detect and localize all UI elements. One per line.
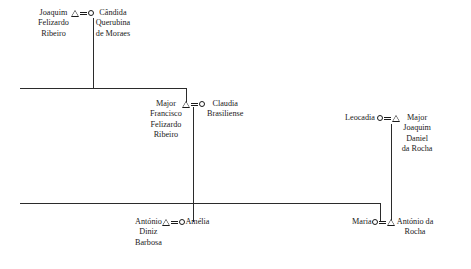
person-name-line: Brasiliense [207,109,243,119]
female-circle-icon [377,115,383,121]
male-triangle-icon [71,10,79,17]
person-name-block-francisco: Major Francisco Felizardo Ribeiro [150,99,182,141]
union-maria-antonio-da-rocha: Maria António da Rocha [352,217,433,238]
person-name-line: Felizardo [38,18,69,28]
male-triangle-icon [162,219,170,226]
male-triangle-icon [182,101,190,108]
marriage-equals-icon [191,102,198,107]
union-symbol-row [162,217,186,227]
person-name-line: Francisco [150,109,182,119]
person-name-line: Major [156,99,176,109]
person-name-line: Querubina [96,18,131,28]
person-name-line: Joaquim [403,123,431,133]
person-name-line: Cândida [99,8,126,18]
person-name-line: Major [407,113,427,123]
union-joaquim-candida: Joaquim Felizardo Ribeiro Cândida Querub… [38,8,130,39]
person-name-line: Maria [352,217,372,227]
marriage-equals-icon [80,11,87,16]
person-name-line: Claudia [212,99,237,109]
person-name-block-major-joaquim-daniel: Major Joaquim Daniel da Rocha [400,113,432,155]
person-name-line: Barbosa [135,238,162,248]
marriage-equals-icon [171,220,178,225]
union-symbol-row [69,8,94,18]
person-name-line: Diniz [139,227,157,237]
union-symbol-row [372,217,396,227]
person-name-line: Leocadia [345,113,375,123]
female-circle-icon [372,219,378,225]
person-name-line: da Rocha [402,144,433,154]
person-name-line: Daniel [406,134,428,144]
person-name-line: Rocha [405,227,426,237]
person-name-line: Felizardo [150,120,181,130]
union-symbol-row [375,113,400,123]
genealogy-chart: Joaquim Felizardo Ribeiro Cândida Querub… [0,0,471,269]
person-name-line: Ribeiro [41,29,66,39]
union-symbol-row [182,99,206,109]
marriage-equals-icon [379,220,386,225]
union-leocadia-joaquim-daniel: Leocadia Major Joaquim Daniel da Rocha [345,113,432,155]
person-name-line: de Moraes [96,29,130,39]
person-name-line: Amélia [185,217,209,227]
male-triangle-icon [392,115,400,122]
person-name-block-antonio-diniz: António Diniz Barbosa [135,217,162,248]
union-francisco-claudia: Major Francisco Felizardo Ribeiro Claudi… [150,99,243,141]
person-name-block-maria: Maria [352,217,372,227]
male-triangle-icon [387,219,395,226]
person-name-block-antonio-da-rocha: António da Rocha [395,217,433,238]
person-name-line: Joaquim [40,8,68,18]
person-name-block-claudia: Claudia Brasiliense [205,99,243,120]
union-antonio-amelia: António Diniz Barbosa Amélia [135,217,210,248]
person-name-block-candida: Cândida Querubina de Moraes [94,8,130,39]
person-name-block-amelia: Amélia [185,217,209,227]
person-name-line: Ribeiro [154,130,179,140]
marriage-equals-icon [384,116,391,121]
person-name-line: António [135,217,162,227]
person-name-block-leocadia: Leocadia [345,113,375,123]
person-name-line: António da [397,217,434,227]
person-name-block-joaquim: Joaquim Felizardo Ribeiro [38,8,69,39]
